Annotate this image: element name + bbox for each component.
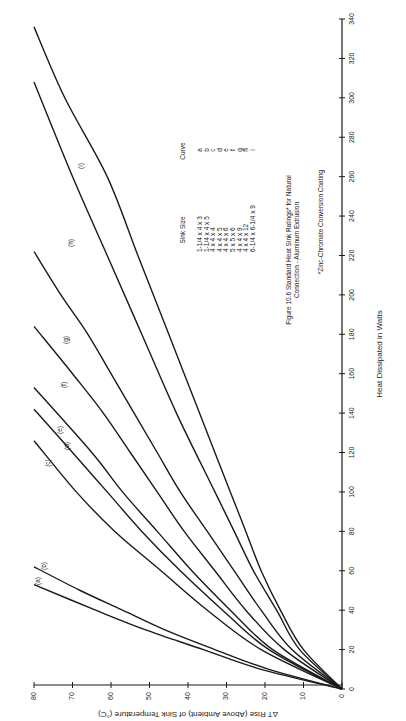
caption-line-2: Connection - Aluminum Extrusion bbox=[293, 202, 300, 298]
x-tick-label: 320 bbox=[348, 52, 355, 64]
x-tick-label: 180 bbox=[348, 328, 355, 340]
x-axis-watts: 0204060801001201401601802002202402602803… bbox=[339, 13, 384, 691]
x-tick-label: 40 bbox=[348, 606, 355, 614]
x-axis-title: Heat Dissipated in Watts bbox=[375, 310, 384, 397]
y-tick-label: 60 bbox=[107, 692, 114, 700]
figure-caption: Figure 10.6 Standard Heat Sink Ratings* … bbox=[285, 169, 325, 324]
y-tick-label: 70 bbox=[68, 692, 75, 700]
curve-i bbox=[34, 27, 342, 689]
curve-label-e: (e) bbox=[56, 426, 64, 434]
curve-label-d: (d) bbox=[63, 442, 71, 450]
caption-line-1: Figure 10.6 Standard Heat Sink Ratings* … bbox=[285, 175, 293, 325]
curve-label-b: (b) bbox=[40, 562, 48, 570]
curve-c bbox=[34, 441, 342, 689]
x-tick-label: 280 bbox=[348, 131, 355, 143]
x-tick-label: 80 bbox=[348, 527, 355, 535]
y-tick-label: 40 bbox=[184, 692, 191, 700]
y-tick-label: 10 bbox=[299, 692, 306, 700]
y-axis-title: ΔT Rise (Above Ambient) of Sink Temperat… bbox=[98, 710, 278, 719]
curve-g bbox=[34, 252, 342, 690]
legend-header-size: Sink Size bbox=[179, 216, 186, 243]
y-axis-delta-t: 01020304050607080ΔT Rise (Above Ambient)… bbox=[30, 682, 345, 719]
curve-label-g: (g) bbox=[62, 336, 70, 344]
curve-b bbox=[34, 567, 342, 689]
y-tick-label: 30 bbox=[222, 692, 229, 700]
y-tick-label: 20 bbox=[261, 692, 268, 700]
curve-d bbox=[34, 409, 342, 689]
x-tick-label: 160 bbox=[348, 368, 355, 380]
x-tick-label: 20 bbox=[348, 646, 355, 654]
curve-f bbox=[34, 326, 342, 689]
curve-a bbox=[34, 585, 342, 689]
curve-label-h: (h) bbox=[67, 239, 75, 247]
x-tick-label: 0 bbox=[348, 687, 355, 691]
x-tick-label: 140 bbox=[348, 407, 355, 419]
x-tick-label: 260 bbox=[348, 171, 355, 183]
x-tick-label: 120 bbox=[348, 447, 355, 459]
legend-row-curve: i bbox=[249, 149, 256, 150]
x-tick-label: 220 bbox=[348, 250, 355, 262]
legend-row-size: 6-1/4 x 6-1/4 x 9 bbox=[249, 205, 256, 252]
legend-table: Sink SizeCurve1-1/4 x 4 x 3a1-1/4 x 4 x … bbox=[179, 142, 256, 252]
heat-sink-chart: 0204060801001201401601802002202402602803… bbox=[0, 0, 406, 721]
curve-label-a: (a) bbox=[34, 577, 42, 585]
y-tick-label: 80 bbox=[30, 692, 37, 700]
legend-header-curve: Curve bbox=[179, 142, 186, 160]
curve-label-c: (c) bbox=[44, 459, 52, 467]
curve-label-i: (i) bbox=[77, 163, 85, 169]
y-tick-label: 0 bbox=[338, 694, 345, 698]
x-tick-label: 300 bbox=[348, 92, 355, 104]
x-tick-label: 340 bbox=[348, 13, 355, 25]
x-tick-label: 240 bbox=[348, 210, 355, 222]
curve-h bbox=[34, 82, 342, 689]
y-tick-label: 50 bbox=[145, 692, 152, 700]
x-tick-label: 60 bbox=[348, 567, 355, 575]
curves: (a)(b)(c)(d)(e)(f)(g)(h)(i) bbox=[34, 27, 342, 689]
curve-label-f: (f) bbox=[60, 382, 68, 388]
caption-footnote: *Zinc-Chromate Conversion Coating bbox=[317, 169, 325, 274]
x-tick-label: 200 bbox=[348, 289, 355, 301]
x-tick-label: 100 bbox=[348, 486, 355, 498]
